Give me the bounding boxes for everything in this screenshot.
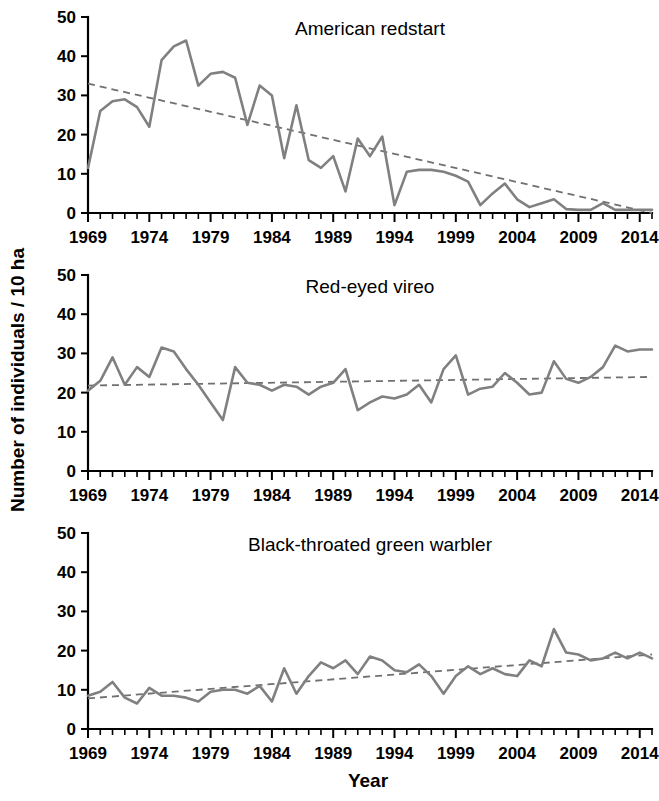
y-tick-label: 0 (67, 720, 76, 739)
x-tick-label: 1979 (192, 228, 230, 247)
chart-american-redstart: 0102030405019691974197919841989199419992… (30, 0, 659, 258)
y-tick-label: 50 (57, 524, 76, 543)
y-tick-label: 0 (67, 204, 76, 223)
x-tick-label: 1984 (253, 744, 291, 763)
x-tick-label: 1999 (437, 486, 475, 505)
x-axis-label: Year (88, 770, 648, 792)
x-tick-label: 1974 (130, 486, 168, 505)
x-tick-label: 1969 (69, 228, 107, 247)
chart-title: Black-throated green warbler (248, 534, 493, 555)
chart-black-throated-green-warbler: 0102030405019691974197919841989199419992… (30, 516, 659, 774)
y-tick-label: 20 (57, 384, 76, 403)
x-tick-label: 2009 (560, 744, 598, 763)
x-tick-label: 1994 (376, 744, 414, 763)
y-tick-label: 0 (67, 462, 76, 481)
y-tick-label: 40 (57, 305, 76, 324)
series-line-american-redstart (88, 41, 652, 210)
x-tick-label: 1999 (437, 228, 475, 247)
y-tick-label: 10 (57, 423, 76, 442)
chart-panel-american-redstart: 0102030405019691974197919841989199419992… (30, 0, 659, 258)
chart-title: Red-eyed vireo (306, 276, 435, 297)
chart-panel-black-throated-green-warbler: 0102030405019691974197919841989199419992… (30, 516, 659, 774)
x-tick-label: 2014 (621, 228, 659, 247)
y-tick-label: 30 (57, 86, 76, 105)
y-tick-label: 30 (57, 602, 76, 621)
x-tick-label: 2014 (621, 486, 659, 505)
y-tick-label: 20 (57, 126, 76, 145)
x-axis-label-text: Year (348, 770, 388, 791)
x-tick-label: 1979 (192, 744, 230, 763)
trend-line (88, 655, 652, 699)
y-tick-label: 10 (57, 681, 76, 700)
x-tick-label: 1984 (253, 486, 291, 505)
y-tick-label: 20 (57, 642, 76, 661)
x-tick-label: 2004 (498, 486, 536, 505)
x-tick-label: 1974 (130, 744, 168, 763)
x-tick-label: 2004 (498, 228, 536, 247)
x-tick-label: 2009 (560, 228, 598, 247)
x-tick-label: 1989 (314, 228, 352, 247)
x-tick-label: 1989 (314, 486, 352, 505)
x-tick-label: 1974 (130, 228, 168, 247)
trend-line (88, 84, 652, 213)
x-tick-label: 2009 (560, 486, 598, 505)
figure-container: Number of individuals / 10 ha 0102030405… (0, 0, 659, 801)
x-tick-label: 1994 (376, 228, 414, 247)
y-tick-label: 50 (57, 8, 76, 27)
y-tick-label: 40 (57, 47, 76, 66)
x-tick-label: 1969 (69, 486, 107, 505)
y-tick-label: 30 (57, 344, 76, 363)
series-line-red-eyed-vireo (88, 346, 652, 420)
y-tick-label: 10 (57, 165, 76, 184)
x-tick-label: 1969 (69, 744, 107, 763)
x-tick-label: 1984 (253, 228, 291, 247)
x-tick-label: 1999 (437, 744, 475, 763)
x-tick-label: 2014 (621, 744, 659, 763)
y-tick-label: 40 (57, 563, 76, 582)
x-tick-label: 1994 (376, 486, 414, 505)
chart-red-eyed-vireo: 0102030405019691974197919841989199419992… (30, 258, 659, 516)
chart-panel-red-eyed-vireo: 0102030405019691974197919841989199419992… (30, 258, 659, 516)
chart-title: American redstart (295, 18, 446, 39)
y-tick-label: 50 (57, 266, 76, 285)
x-tick-label: 1979 (192, 486, 230, 505)
x-tick-label: 1989 (314, 744, 352, 763)
y-axis-label-text: Number of individuals / 10 ha (7, 248, 29, 512)
x-tick-label: 2004 (498, 744, 536, 763)
